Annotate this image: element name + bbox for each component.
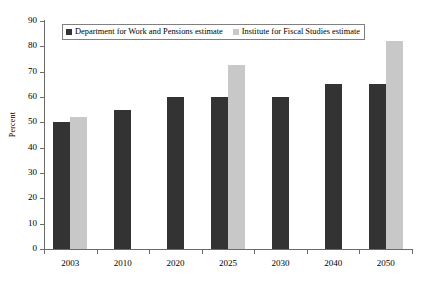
x-axis-tick-label: 2040 — [324, 258, 342, 269]
y-axis-tick-label: 0 — [33, 243, 38, 254]
legend-label: Department for Work and Pensions estimat… — [75, 27, 223, 37]
x-axis-tick-mark — [97, 250, 98, 254]
y-axis-tick-label: 70 — [28, 66, 37, 77]
bar-2050-series-1 — [386, 41, 403, 249]
bar-2003-series-1 — [70, 117, 87, 249]
bar-2003-series-0 — [53, 122, 70, 249]
plot-area — [44, 21, 412, 249]
bar-2020-series-0 — [167, 97, 184, 249]
x-axis-tick-label: 2010 — [114, 258, 132, 269]
y-axis-tick: 90 — [0, 21, 44, 22]
x-axis-tick-mark — [254, 250, 255, 254]
y-axis-tick-label: 50 — [28, 116, 37, 127]
legend-swatch-icon — [66, 29, 72, 35]
x-axis-tick-label: 2030 — [272, 258, 290, 269]
bar-2025-series-1 — [228, 65, 245, 249]
legend-swatch-icon — [233, 29, 239, 35]
x-axis-line — [44, 249, 413, 250]
x-axis-tick-mark — [149, 250, 150, 254]
x-axis-tick-label: 2025 — [219, 258, 237, 269]
x-axis-tick-mark — [359, 250, 360, 254]
y-axis-tick: 70 — [0, 72, 44, 73]
y-axis-title: Percent — [4, 0, 22, 249]
x-axis-tick-label: 2003 — [61, 258, 79, 269]
bar-2025-series-0 — [211, 97, 228, 249]
y-axis-tick-label: 10 — [28, 218, 37, 229]
y-axis-tick: 30 — [0, 173, 44, 174]
y-axis-tick-label: 40 — [28, 142, 37, 153]
x-axis-tick-mark — [202, 250, 203, 254]
y-axis-tick-label: 20 — [28, 192, 37, 203]
bar-2050-series-0 — [369, 84, 386, 249]
legend-entry-0: Department for Work and Pensions estimat… — [66, 27, 223, 37]
x-axis-tick-label: 2050 — [377, 258, 395, 269]
bar-chart: Percent 0102030405060708090 200320102020… — [0, 0, 424, 286]
y-axis-tick: 10 — [0, 224, 44, 225]
y-axis-tick: 20 — [0, 198, 44, 199]
x-axis-tick-mark — [44, 250, 45, 254]
x-axis-tick-label: 2020 — [166, 258, 184, 269]
bar-2040-series-0 — [325, 84, 342, 249]
bar-2010-series-0 — [114, 110, 131, 249]
y-axis-tick-label: 30 — [28, 167, 37, 178]
y-axis-tick: 40 — [0, 148, 44, 149]
legend-entry-1: Institute for Fiscal Studies estimate — [233, 27, 360, 37]
y-axis-tick: 80 — [0, 46, 44, 47]
x-axis-tick-mark — [412, 250, 413, 254]
y-axis-tick-label: 80 — [28, 40, 37, 51]
y-axis-title-label: Percent — [9, 112, 18, 137]
y-axis-tick-label: 90 — [28, 15, 37, 26]
bar-2030-series-0 — [272, 97, 289, 249]
y-axis-tick: 50 — [0, 122, 44, 123]
y-axis-tick: 60 — [0, 97, 44, 98]
y-axis-tick-label: 60 — [28, 91, 37, 102]
legend-label: Institute for Fiscal Studies estimate — [242, 27, 360, 37]
x-axis-tick-mark — [307, 250, 308, 254]
y-axis-tick: 0 — [0, 249, 44, 250]
chart-legend: Department for Work and Pensions estimat… — [62, 24, 365, 40]
